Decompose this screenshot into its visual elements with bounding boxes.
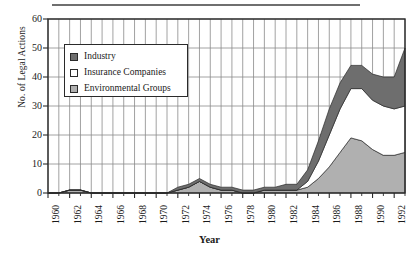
legend-label-insurance-companies: Insurance Companies <box>84 68 166 78</box>
legend-item-environmental-groups: Environmental Groups <box>70 81 187 97</box>
legend-item-insurance-companies: Insurance Companies <box>70 65 187 81</box>
legend-label-industry: Industry <box>84 52 116 62</box>
figure: No. of Legal Actions 0102030405060 19601… <box>0 0 419 254</box>
legend-label-environmental-groups: Environmental Groups <box>84 84 171 94</box>
legend-swatch-industry <box>70 53 78 61</box>
x-axis-label: Year <box>0 234 419 245</box>
legend-swatch-insurance-companies <box>70 69 78 77</box>
legend-item-industry: Industry <box>70 49 187 65</box>
plot-area <box>0 0 419 254</box>
legend-swatch-environmental-groups <box>70 85 78 93</box>
chart-legend: Industry Insurance Companies Environment… <box>64 44 188 97</box>
